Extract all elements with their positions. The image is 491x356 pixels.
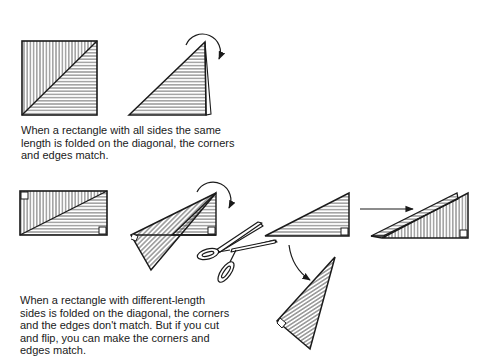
right-angle-marker	[341, 228, 348, 235]
caption-line: and edges match.	[21, 149, 236, 162]
caption-line: and the edges don't match. But if you cu…	[20, 319, 235, 332]
right-angle-marker	[21, 192, 28, 199]
caption-line: When a rectangle with all sides the same	[21, 124, 236, 137]
right-angle-marker	[99, 227, 106, 234]
caption-line: and flip, you can make the corners and	[20, 332, 235, 345]
flipped-triangle	[277, 257, 335, 349]
square-folded-triangle	[129, 42, 211, 115]
caption-rectangle: When a rectangle with different-length s…	[20, 294, 235, 356]
caption-square: When a rectangle with all sides the same…	[21, 124, 236, 162]
cut-triangle	[265, 193, 349, 236]
right-angle-marker	[460, 230, 467, 237]
matched-triangles	[371, 193, 468, 238]
caption-line: When a rectangle with different-length	[20, 294, 235, 307]
caption-line: edges match.	[20, 344, 235, 356]
right-angle-marker	[208, 227, 215, 234]
caption-line: sides is folded on the diagonal, the cor…	[20, 307, 235, 320]
caption-line: length is folded on the diagonal, the co…	[21, 137, 236, 150]
rectangle-hatched	[20, 191, 107, 235]
square-hatched	[22, 41, 97, 115]
flip-arrow-icon	[289, 245, 310, 280]
